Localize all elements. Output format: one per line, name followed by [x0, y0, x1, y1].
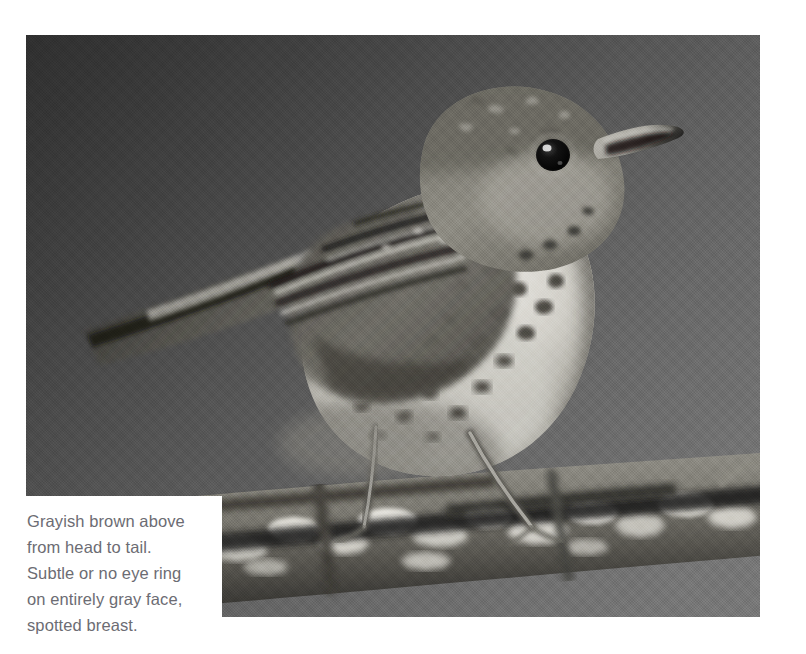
- field-guide-page: Grayish brown above from head to tail. S…: [0, 0, 806, 654]
- caption-panel: Grayish brown above from head to tail. S…: [0, 496, 222, 654]
- undertail-shadow: [278, 409, 434, 477]
- tail: [84, 249, 322, 365]
- beak: [594, 125, 684, 159]
- caption-text: Grayish brown above from head to tail. S…: [27, 508, 212, 638]
- eye: [532, 135, 574, 175]
